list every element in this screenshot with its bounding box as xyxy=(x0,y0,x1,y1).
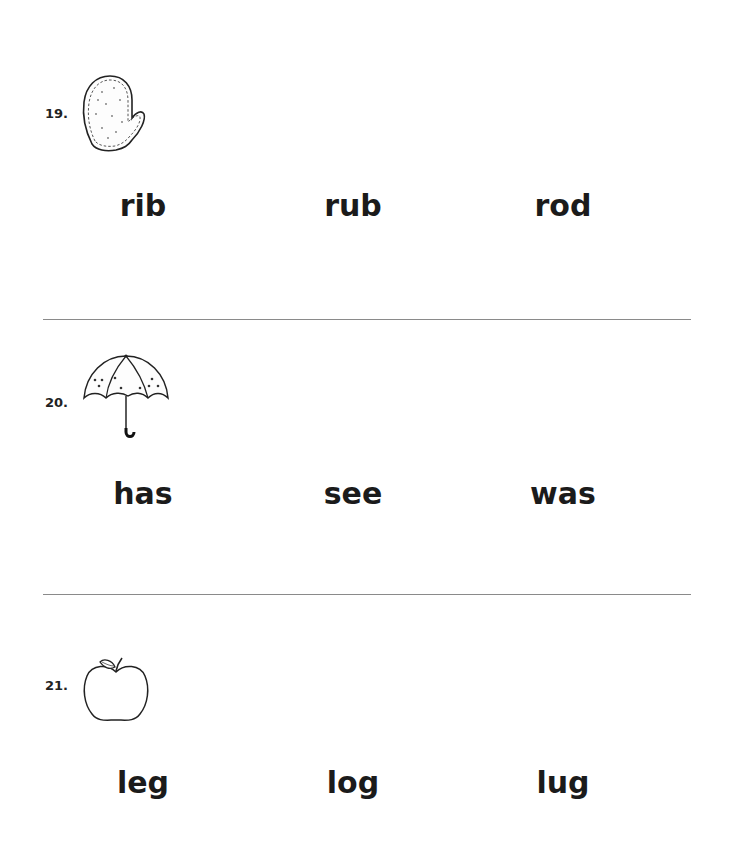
divider xyxy=(43,319,691,320)
word-choice[interactable]: log xyxy=(293,765,413,800)
word-choice[interactable]: rub xyxy=(293,188,413,223)
item-number: 19. xyxy=(45,106,68,121)
word-choice[interactable]: leg xyxy=(83,765,203,800)
apple-icon xyxy=(82,654,152,730)
mitten-icon xyxy=(80,74,150,158)
word-choice[interactable]: was xyxy=(503,476,623,511)
word-choice[interactable]: see xyxy=(293,476,413,511)
umbrella-icon xyxy=(82,352,172,446)
divider xyxy=(43,594,691,595)
item-number: 20. xyxy=(45,395,68,410)
word-choice[interactable]: rib xyxy=(83,188,203,223)
word-choice[interactable]: rod xyxy=(503,188,623,223)
word-choice[interactable]: has xyxy=(83,476,203,511)
item-number: 21. xyxy=(45,678,68,693)
word-choice[interactable]: lug xyxy=(503,765,623,800)
